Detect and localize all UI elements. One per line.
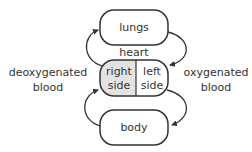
arrow-heart-to-lungs [86, 30, 102, 66]
heart-right-side-line1: right [106, 65, 133, 78]
arrow-lungs-to-heart [168, 32, 186, 65]
arrow-heart-to-body [167, 90, 186, 125]
body-label: body [120, 121, 148, 134]
deoxygenated-label-line1: deoxygenated [9, 66, 88, 79]
deoxygenated-label-line2: blood [33, 81, 63, 94]
body-node: body [100, 110, 168, 145]
heart-node: right side left side [100, 60, 168, 96]
oxygenated-label-line2: blood [201, 81, 231, 94]
lungs-label: lungs [119, 21, 149, 34]
circulation-diagram: lungs heart right side left side body de… [0, 0, 252, 152]
heart-right-side-line2: side [108, 79, 131, 92]
arrow-body-to-heart [85, 90, 100, 126]
heart-left-side-line1: left [143, 65, 162, 78]
oxygenated-label-line1: oxygenated [184, 66, 249, 79]
lungs-node: lungs [100, 10, 168, 45]
heart-label: heart [119, 46, 149, 59]
heart-left-side-line2: side [141, 79, 164, 92]
